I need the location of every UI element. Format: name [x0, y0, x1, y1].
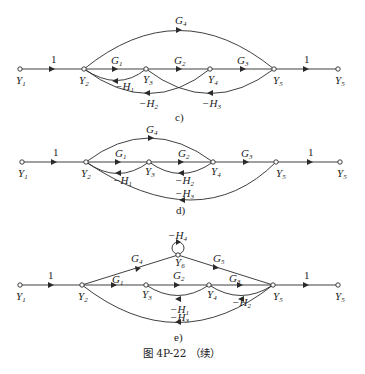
label-Y5: Y5 [276, 167, 286, 181]
branch-d-G4 [86, 138, 213, 162]
label-Y1: Y1 [16, 74, 26, 88]
gain-minus-H3: −H3 [175, 187, 194, 201]
gain-G5: G5 [213, 252, 225, 266]
node-Y3 [144, 67, 148, 71]
label-Y6: Y6 [175, 256, 185, 270]
arrow-icon [176, 27, 182, 33]
gain-G4: G4 [146, 123, 158, 137]
label-Y2: Y2 [79, 74, 89, 88]
gain-minus-H2: −H2 [139, 97, 158, 111]
gain-G4: G4 [175, 14, 187, 28]
label-Y1: Y1 [16, 290, 26, 304]
gain-minus-H4: −H4 [168, 229, 187, 243]
branch-e-H4-selfloop [172, 242, 184, 254]
gain-G4: G4 [131, 252, 143, 266]
diagram-c: Y1 Y2 Y3 Y4 Y5 Y5 1 1 G1 G2 G3 G4 −H1 −H… [16, 14, 345, 124]
branch-e-H2 [209, 285, 273, 296]
label-Y5-out: Y5 [335, 290, 345, 304]
label-Y3: Y3 [145, 165, 155, 179]
arrow-icon [112, 66, 118, 72]
node-Y1 [20, 160, 24, 164]
signal-flow-graphs: Y1 Y2 Y3 Y4 Y5 Y5 1 1 G1 G2 G3 G4 −H1 −H… [0, 0, 365, 374]
node-Y3 [147, 160, 151, 164]
gain-G2: G2 [173, 269, 185, 283]
node-Y4 [208, 67, 212, 71]
label-Y3: Y3 [143, 73, 153, 87]
gain-minus-H3: −H3 [202, 97, 221, 111]
label-Y5-out: Y5 [337, 167, 347, 181]
node-Y5-out [336, 67, 340, 71]
diagram-e: Y1 Y2 Y3 Y4 Y5 Y5 Y6 1 1 G1 G2 G3 G4 G5 … [16, 229, 345, 344]
arrow-icon [307, 159, 313, 165]
branch-e-G4 [82, 255, 178, 285]
branch-c-H1 [84, 69, 146, 81]
label-Y4: Y4 [207, 288, 217, 302]
node-Y3 [144, 283, 148, 287]
arrow-icon [303, 66, 309, 72]
gain-1: 1 [48, 269, 54, 281]
arrow-icon [49, 66, 55, 72]
node-Y2 [80, 283, 84, 287]
arrow-icon [51, 159, 57, 165]
label-Y1: Y1 [18, 167, 28, 181]
node-Y1 [18, 67, 22, 71]
arrow-icon [303, 282, 309, 288]
gain-G1: G1 [112, 273, 123, 287]
arrow-icon [144, 90, 150, 96]
node-Y5-out [336, 283, 340, 287]
branch-e-H1 [146, 285, 209, 296]
node-Y5 [274, 160, 278, 164]
node-Y5 [272, 67, 276, 71]
diagram-d: Y1 Y2 Y3 Y4 Y5 Y5 1 1 G1 G2 G3 G4 −H1 −H… [18, 123, 347, 217]
node-Y5 [271, 283, 275, 287]
node-Y2 [82, 67, 86, 71]
gain-G2: G2 [178, 147, 190, 161]
gain-G3: G3 [241, 147, 253, 161]
label-Y2: Y2 [78, 290, 88, 304]
node-Y1 [18, 283, 22, 287]
caption-d: d) [176, 204, 186, 217]
caption-c: c) [175, 111, 184, 124]
gain-minus-H1: −H1 [113, 174, 132, 188]
gain-G2: G2 [174, 54, 186, 68]
caption-e: e) [174, 331, 183, 344]
label-Y3: Y3 [142, 288, 152, 302]
arrow-icon [174, 282, 180, 288]
arrow-icon [115, 159, 121, 165]
gain-1: 1 [308, 146, 314, 158]
gain-1: 1 [304, 53, 310, 65]
branch-e-G5 [178, 255, 273, 285]
arrow-icon [213, 264, 219, 270]
node-Y2 [84, 160, 88, 164]
arrow-icon [175, 296, 181, 302]
gain-1: 1 [53, 146, 59, 158]
arrow-icon [178, 159, 184, 165]
gain-G1: G1 [111, 54, 122, 68]
label-Y5: Y5 [273, 290, 283, 304]
arrow-icon [207, 90, 213, 96]
label-Y2: Y2 [81, 167, 91, 181]
node-Y4 [211, 160, 215, 164]
node-Y4 [207, 283, 211, 287]
arrow-icon [48, 282, 54, 288]
gain-G1: G1 [115, 147, 126, 161]
gain-minus-H1: −H1 [115, 80, 134, 94]
gain-G3: G3 [237, 54, 249, 68]
figure-caption: 图 4P-22 （续） [143, 347, 220, 359]
label-Y4: Y4 [208, 73, 218, 87]
label-Y5: Y5 [273, 74, 283, 88]
node-Y5-out [338, 160, 342, 164]
gain-minus-H2: −H2 [175, 174, 194, 188]
gain-minus-H2: −H2 [232, 296, 251, 310]
gain-1: 1 [51, 53, 57, 65]
gain-1: 1 [304, 269, 310, 281]
label-Y4: Y4 [211, 165, 221, 179]
label-Y5-out: Y5 [335, 74, 345, 88]
